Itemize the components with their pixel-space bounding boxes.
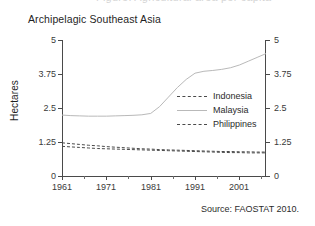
y-label-left-3: 3.75 [38, 70, 56, 79]
x-label-1961: 1961 [52, 183, 72, 192]
legend-label-malaysia: Malaysia [213, 105, 249, 115]
y-label-right-0: 0 [274, 172, 279, 181]
chart-legend: Indonesia Malaysia Philippines [177, 90, 257, 132]
y-label-left-1: 1.25 [38, 138, 56, 147]
source-note: Source: FAOSTAT 2010. [201, 204, 299, 214]
cropped-title-text: Figure. Agricultural area per capita [96, 0, 271, 3]
legend-swatch-malaysia-icon [177, 107, 207, 114]
legend-label-philippines: Philippines [213, 119, 257, 129]
y-label-left-4: 5 [51, 36, 56, 45]
x-label-1991: 1991 [185, 183, 205, 192]
chart-figure: Figure. Agricultural area per capita Arc… [0, 0, 315, 226]
y-label-right-4: 5 [274, 36, 279, 45]
y-axis-title: Hectares [9, 66, 20, 136]
x-label-1981: 1981 [141, 183, 161, 192]
y-label-left-0: 0 [51, 172, 56, 181]
y-label-right-1: 1.25 [274, 138, 292, 147]
y-tick-right-1 [266, 142, 270, 143]
y-label-right-3: 3.75 [274, 70, 292, 79]
legend-swatch-indonesia-icon [177, 93, 207, 100]
legend-label-indonesia: Indonesia [213, 91, 252, 101]
legend-item-malaysia: Malaysia [177, 104, 257, 116]
plot-area: 0 1.25 2.5 3.75 5 0 1.25 2.5 3.75 5 1961… [62, 40, 266, 176]
y-label-left-2: 2.5 [43, 104, 56, 113]
x-label-2001: 2001 [229, 183, 249, 192]
y-label-right-2: 2.5 [274, 104, 287, 113]
legend-swatch-philippines-icon [177, 121, 207, 128]
x-label-1971: 1971 [96, 183, 116, 192]
y-tick-right-0 [266, 176, 270, 177]
legend-item-indonesia: Indonesia [177, 90, 257, 102]
cropped-title-above: Figure. Agricultural area per capita [0, 0, 315, 5]
legend-item-philippines: Philippines [177, 118, 257, 130]
y-tick-right-2 [266, 108, 270, 109]
chart-title: Archipelagic Southeast Asia [28, 13, 161, 25]
y-tick-right-4 [266, 40, 270, 41]
y-tick-right-3 [266, 74, 270, 75]
